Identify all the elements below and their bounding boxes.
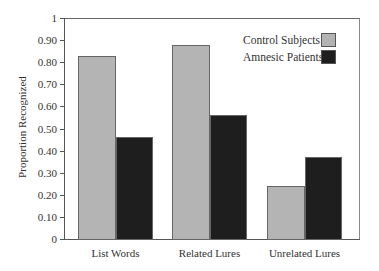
y-tick-label: 0.10 — [21, 211, 57, 223]
y-tick — [60, 173, 64, 174]
legend-label: Amnesic Patients — [243, 50, 323, 64]
bar-control-subjects-unrelated-lures — [267, 186, 305, 240]
y-tick-label: 0.80 — [21, 56, 57, 68]
bar-control-subjects-related-lures — [172, 45, 210, 240]
x-category-label: Related Lures — [155, 247, 265, 260]
y-tick — [60, 18, 64, 19]
bar-control-subjects-list-words — [78, 56, 116, 240]
legend-swatch — [321, 50, 336, 64]
y-tick — [60, 195, 64, 196]
y-tick-label: 0.90 — [21, 34, 57, 46]
y-tick — [60, 151, 64, 152]
bar-chart: 00.100.200.300.400.500.600.700.800.901 L… — [0, 0, 379, 271]
y-tick — [60, 62, 64, 63]
y-tick — [60, 217, 64, 218]
y-tick-label: 0 — [21, 233, 57, 245]
y-tick — [60, 129, 64, 130]
legend-label: Control Subjects — [243, 33, 320, 47]
y-tick — [60, 40, 64, 41]
y-tick — [60, 239, 64, 240]
bar-amnesic-patients-related-lures — [210, 115, 247, 240]
y-axis — [64, 18, 65, 240]
y-tick-label: 1 — [21, 12, 57, 24]
x-category-label: Unrelated Lures — [250, 247, 360, 260]
y-tick — [60, 84, 64, 85]
y-tick-label: 0.20 — [21, 189, 57, 201]
y-tick — [60, 106, 64, 107]
bar-amnesic-patients-unrelated-lures — [305, 157, 342, 240]
legend-swatch — [321, 33, 336, 47]
y-axis-title: Proportion Recognized — [16, 69, 28, 185]
bar-amnesic-patients-list-words — [116, 137, 153, 240]
